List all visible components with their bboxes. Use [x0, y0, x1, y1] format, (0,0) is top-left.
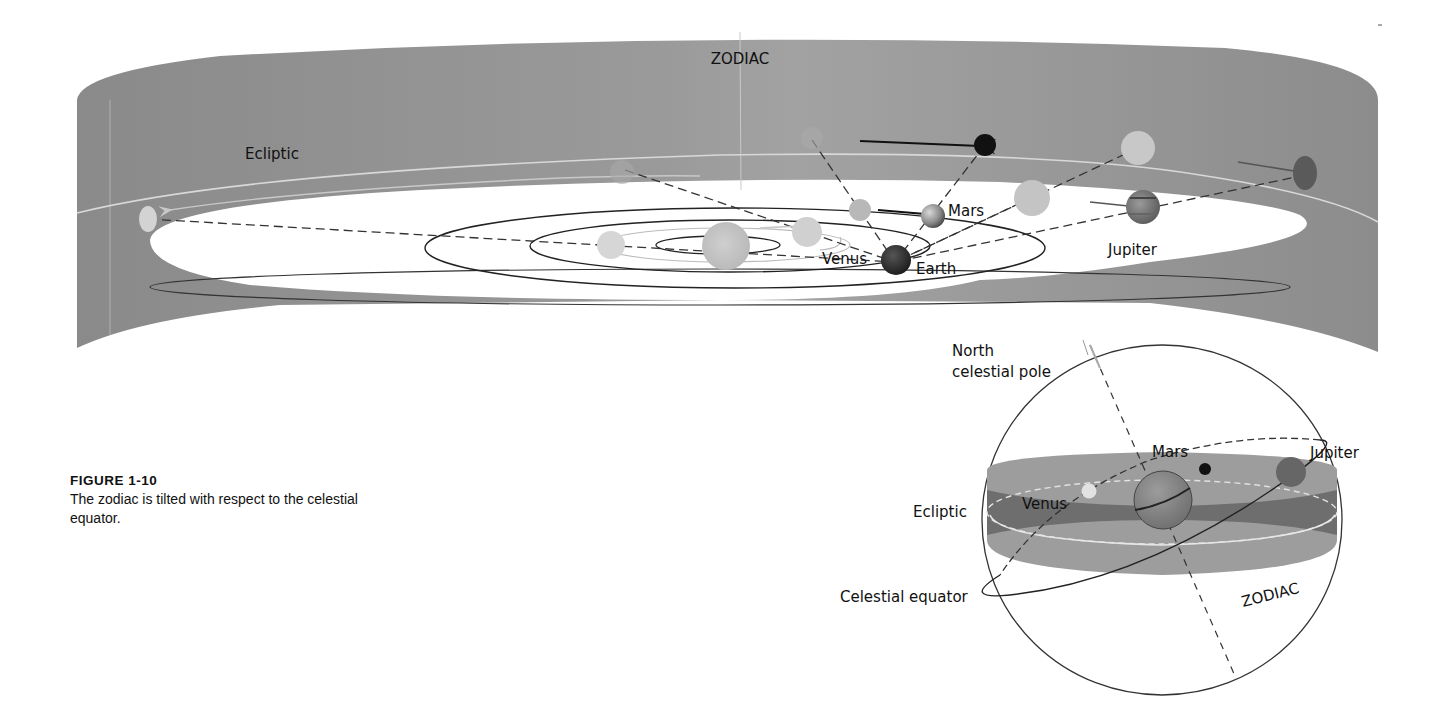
zodiac-band [77, 32, 1378, 352]
venus-label-top: Venus [822, 250, 867, 268]
celestial-equator-label: Celestial equator [840, 588, 969, 606]
jupiter-projected-dark [1293, 156, 1317, 190]
figure-caption-text: The zodiac is tilted with respect to the… [70, 490, 410, 528]
north-pole-label-1: North [952, 342, 994, 360]
venus-label-sphere: Venus [1022, 495, 1067, 513]
figure-number: FIGURE 1-10 [70, 473, 410, 488]
celestial-sphere [982, 345, 1342, 695]
ecliptic-label-top: Ecliptic [245, 145, 299, 163]
jupiter-projected-faint [1121, 131, 1155, 165]
north-pole-label-2: celestial pole [952, 363, 1051, 381]
ecliptic-label-sphere: Ecliptic [913, 503, 967, 521]
venus-position [792, 217, 822, 247]
earth [881, 245, 911, 275]
sphere-earth [1134, 471, 1192, 529]
jupiter [1126, 190, 1160, 224]
mars-projected-faint [801, 127, 823, 149]
sphere-mars [1199, 463, 1211, 475]
jupiter-label-sphere: Jupiter [1309, 444, 1360, 462]
mars-faint [849, 199, 871, 221]
figure-caption: FIGURE 1-10 The zodiac is tilted with re… [70, 473, 410, 528]
zodiac-label-top: ZODIAC [711, 50, 770, 68]
zodiac-figure: ZODIAC Ecliptic Venus Earth Mars Jupiter… [0, 0, 1445, 720]
venus-projected [610, 160, 634, 184]
earth-label-top: Earth [916, 260, 956, 278]
sun [702, 222, 750, 270]
mars-label-sphere: Mars [1152, 443, 1188, 461]
mars-projected-black [974, 134, 996, 156]
sphere-venus [1082, 484, 1097, 499]
sphere-jupiter [1276, 457, 1306, 487]
mars-label-top: Mars [948, 202, 984, 220]
mars [921, 204, 945, 228]
venus-faint-1 [597, 231, 625, 259]
jupiter-faint [1014, 180, 1050, 216]
venus-projected-far [139, 206, 157, 232]
jupiter-label-top: Jupiter [1107, 241, 1158, 259]
